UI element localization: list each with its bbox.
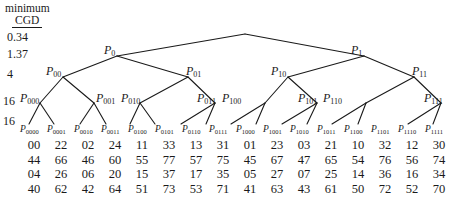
data-cell: 12 [399,138,425,152]
data-cell: 11 [129,138,155,152]
data-cell: 76 [372,153,398,167]
data-cell: 56 [399,153,425,167]
tree-leaf-P0101: P0101 [155,124,174,135]
tree-leaf-P0111: P0111 [209,124,227,135]
column-header-cgd: CGD [12,14,42,28]
data-cell: 54 [345,153,371,167]
data-cell: 20 [102,167,128,181]
data-cell: 33 [156,138,182,152]
data-cell: 61 [318,182,344,196]
data-cell: 24 [102,138,128,152]
data-cell: 32 [372,138,398,152]
data-cell: 36 [372,167,398,181]
data-cell: 70 [426,182,452,196]
data-cell: 67 [264,153,290,167]
data-cell: 72 [372,182,398,196]
data-cell: 05 [237,167,263,181]
data-cell: 35 [210,167,236,181]
data-cell: 66 [48,153,74,167]
data-cell: 26 [48,167,74,181]
data-cell: 77 [156,153,182,167]
tree-leaf-P1110: P1110 [398,124,416,135]
data-cell: 10 [345,138,371,152]
tree-node-P01: P01 [186,65,201,79]
data-cell: 17 [183,167,209,181]
tree-node-P11: P11 [412,65,427,79]
data-cell: 02 [75,138,101,152]
tree-leaf-P0110: P0110 [182,124,201,135]
data-cell: 46 [75,153,101,167]
tree-node-P00: P00 [46,65,61,79]
data-cell: 45 [237,153,263,167]
data-cell: 42 [75,182,101,196]
data-cell: 40 [21,182,47,196]
data-cell: 21 [318,138,344,152]
data-cell: 53 [183,182,209,196]
data-cell: 31 [210,138,236,152]
data-cell: 23 [264,138,290,152]
data-cell: 74 [426,153,452,167]
tree-node-P001: P001 [96,92,115,106]
tree-node-P0: P0 [104,44,115,58]
column-header-minimum: minimum [5,2,50,14]
tree-leaf-P0100: P0100 [128,124,147,135]
cgd-value-4: 16 [3,115,15,128]
data-cell: 34 [426,167,452,181]
data-cell: 62 [48,182,74,196]
data-cell: 00 [21,138,47,152]
tree-node-P1: P1 [351,44,362,58]
data-cell: 03 [291,138,317,152]
data-cell: 25 [318,167,344,181]
tree-leaf-P1001: P1001 [263,124,282,135]
data-cell: 06 [75,167,101,181]
data-cell: 30 [426,138,452,152]
tree-leaf-P1100: P1100 [344,124,363,135]
data-cell: 51 [129,182,155,196]
data-cell: 16 [399,167,425,181]
data-cell: 60 [102,153,128,167]
cgd-value-2: 4 [7,68,13,81]
tree-node-P111: P111 [424,92,443,106]
cgd-value-3: 16 [3,95,15,108]
data-cell: 52 [399,182,425,196]
tree-node-P10: P10 [271,65,286,79]
data-cell: 75 [210,153,236,167]
tree-node-P010: P010 [121,92,140,106]
tree-node-P000: P000 [20,92,39,106]
data-cell: 50 [345,182,371,196]
data-cell: 07 [291,167,317,181]
tree-leaf-P0011: P0011 [101,124,120,135]
tree-leaf-P1000: P1000 [236,124,255,135]
tree-leaf-P0010: P0010 [74,124,93,135]
tree-leaf-P1011: P1011 [317,124,336,135]
data-cell: 44 [21,153,47,167]
data-cell: 73 [156,182,182,196]
data-cell: 43 [291,182,317,196]
data-cell: 71 [210,182,236,196]
data-cell: 04 [21,167,47,181]
data-cell: 65 [318,153,344,167]
tree-node-P101: P101 [298,92,317,106]
tree-leaf-P1101: P1101 [371,124,390,135]
tree-leaf-P0001: P0001 [47,124,66,135]
data-cell: 63 [264,182,290,196]
tree-leaf-P1010: P1010 [290,124,309,135]
cgd-value-1: 1.37 [7,48,28,61]
tree-leaf-P1111: P1111 [425,124,443,135]
data-cell: 13 [183,138,209,152]
data-cell: 15 [129,167,155,181]
data-cell: 37 [156,167,182,181]
data-cell: 14 [345,167,371,181]
data-cell: 55 [129,153,155,167]
data-cell: 22 [48,138,74,152]
tree-leaf-P0000: P0000 [20,124,39,135]
tree-node-P100: P100 [222,92,241,106]
tree-node-P011: P011 [197,92,216,106]
data-cell: 47 [291,153,317,167]
tree-node-P110: P110 [323,92,342,106]
cgd-value-0: 0.34 [7,31,28,44]
data-cell: 41 [237,182,263,196]
data-cell: 64 [102,182,128,196]
data-cell: 57 [183,153,209,167]
data-cell: 01 [237,138,263,152]
